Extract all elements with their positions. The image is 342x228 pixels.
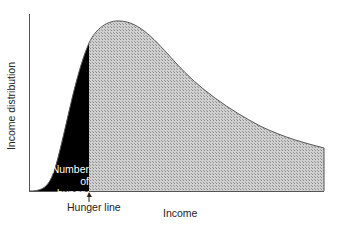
x-axis-label: Income: [163, 207, 197, 219]
number-of-hungry-label: Number of hungry: [47, 163, 89, 199]
y-axis-label: Income distribution: [5, 51, 17, 161]
hungry-label-line2: of hungry: [47, 175, 89, 199]
hungry-label-line1: Number: [47, 163, 89, 175]
hunger-line-label: Hunger line: [67, 201, 121, 213]
